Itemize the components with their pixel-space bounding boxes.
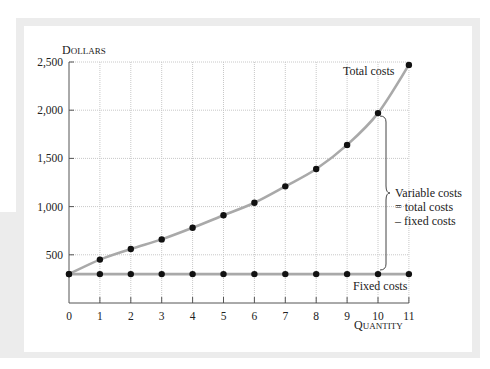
total-costs-curve bbox=[69, 65, 409, 274]
x-tick-label: 8 bbox=[313, 310, 319, 322]
axes bbox=[69, 62, 409, 303]
cost-chart: 5001,0001,5002,0002,500 01234567891011 D… bbox=[0, 0, 490, 369]
x-axis-title: QUANTITY bbox=[354, 318, 403, 332]
x-tick-label: 9 bbox=[344, 310, 350, 322]
x-tick-label: 4 bbox=[190, 310, 196, 322]
x-tick-label: 0 bbox=[66, 310, 72, 322]
x-tick-label: 3 bbox=[159, 310, 165, 322]
total-costs-point bbox=[313, 166, 319, 172]
y-tick-labels: 5001,0001,5002,0002,500 bbox=[37, 56, 63, 261]
y-axis-title: DOLLARS bbox=[62, 43, 106, 57]
total-costs-point bbox=[406, 62, 412, 68]
fixed-costs-point bbox=[375, 271, 381, 277]
x-tick-label: 6 bbox=[252, 310, 258, 322]
total-costs-point bbox=[97, 256, 103, 262]
y-tick-label: 500 bbox=[46, 249, 64, 261]
variable-costs-eq-line: = total costs bbox=[395, 200, 453, 214]
total-costs-point bbox=[220, 212, 226, 218]
gridlines bbox=[69, 62, 409, 303]
total-costs-point bbox=[344, 142, 350, 148]
x-tick-label: 11 bbox=[403, 310, 414, 322]
y-tick-label: 2,000 bbox=[37, 104, 63, 117]
fixed-costs-point bbox=[313, 271, 319, 277]
total-costs-point bbox=[159, 236, 165, 242]
x-tick-label: 1 bbox=[97, 310, 103, 322]
total-costs-point bbox=[282, 183, 288, 189]
total-costs-label: Total costs bbox=[343, 64, 395, 78]
total-costs-point bbox=[375, 110, 381, 116]
total-costs-point bbox=[128, 246, 134, 252]
total-costs-point bbox=[251, 200, 257, 206]
variable-costs-brace bbox=[380, 116, 390, 270]
fixed-costs-point bbox=[344, 271, 350, 277]
x-tick-label: 7 bbox=[282, 310, 288, 322]
y-tick-label: 2,500 bbox=[37, 56, 63, 69]
fixed-costs-point bbox=[406, 271, 412, 277]
fixed-costs-point bbox=[282, 271, 288, 277]
fixed-costs-point bbox=[97, 271, 103, 277]
fixed-costs-point bbox=[159, 271, 165, 277]
fixed-costs-point bbox=[251, 271, 257, 277]
total-costs-point bbox=[189, 225, 195, 231]
fixed-costs-point bbox=[189, 271, 195, 277]
fixed-costs-point bbox=[66, 271, 72, 277]
y-tick-label: 1,000 bbox=[37, 201, 63, 214]
variable-costs-minus-line: – fixed costs bbox=[394, 214, 456, 228]
data-series bbox=[66, 62, 412, 278]
fixed-costs-label: Fixed costs bbox=[353, 279, 408, 293]
variable-costs-label: Variable costs bbox=[395, 186, 462, 200]
x-tick-label: 2 bbox=[128, 310, 134, 322]
fixed-costs-point bbox=[220, 271, 226, 277]
y-tick-label: 1,500 bbox=[37, 152, 63, 165]
x-tick-label: 5 bbox=[221, 310, 227, 322]
fixed-costs-point bbox=[128, 271, 134, 277]
